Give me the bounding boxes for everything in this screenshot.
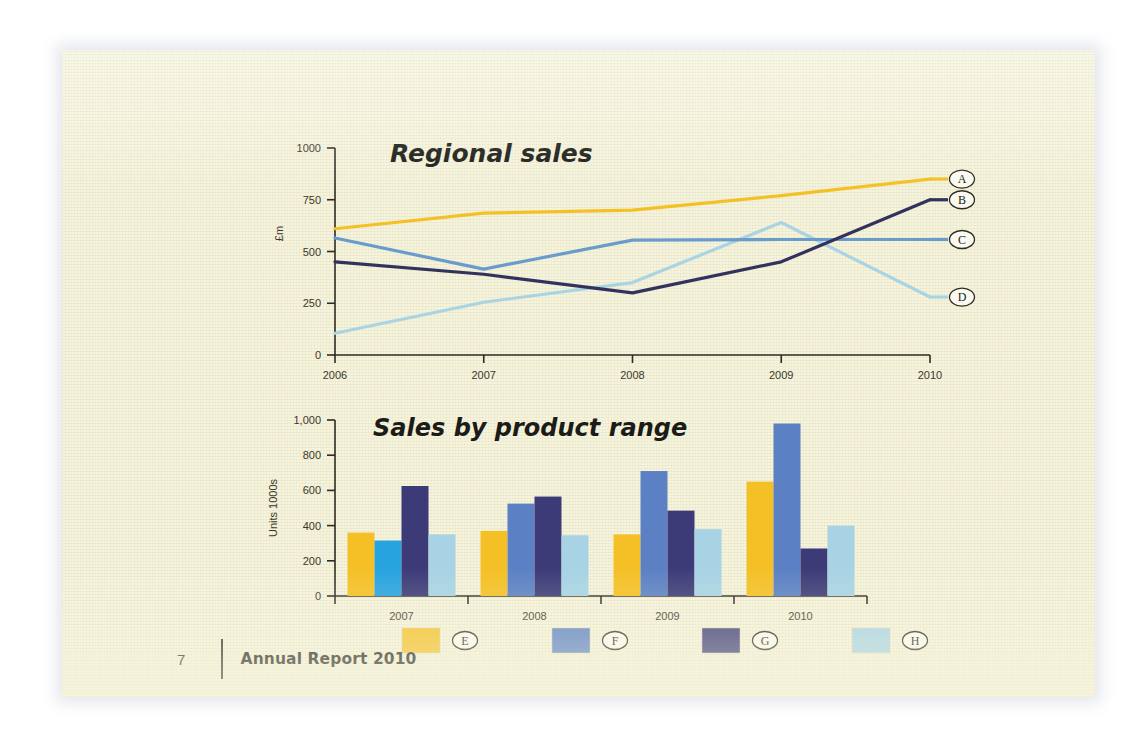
bar-h-2007[interactable] bbox=[429, 534, 456, 596]
legend-badge-g[interactable]: G bbox=[753, 632, 778, 650]
y-tick-label: 250 bbox=[303, 297, 321, 309]
line-legend-badge-d[interactable]: D bbox=[950, 288, 975, 306]
x-tick-label-2007: 2007 bbox=[389, 610, 413, 622]
sales-by-product-range-svg: 02004006008001,000Units 1000sSales by pr… bbox=[217, 350, 1017, 640]
y-tick-label: 1000 bbox=[297, 142, 321, 154]
y-tick-label: 0 bbox=[315, 590, 321, 602]
y-axis-label: £m bbox=[273, 226, 285, 241]
bar-f-2008[interactable] bbox=[508, 504, 535, 596]
report-page: 0250500750100020062007200820092010£mRegi… bbox=[62, 50, 1095, 697]
bar-group bbox=[348, 486, 456, 596]
y-tick-label: 400 bbox=[303, 520, 321, 532]
x-tick-label-2008: 2008 bbox=[522, 610, 546, 622]
x-tick-label-2009: 2009 bbox=[655, 610, 679, 622]
sales-by-product-range-chart: 02004006008001,000Units 1000sSales by pr… bbox=[217, 350, 1017, 640]
bar-h-2009[interactable] bbox=[695, 529, 722, 596]
y-tick-label: 750 bbox=[303, 194, 321, 206]
line-legend-badge-a[interactable]: A bbox=[950, 170, 975, 188]
badge-label: E bbox=[461, 634, 468, 648]
badge-label: H bbox=[911, 634, 920, 648]
bar-g-2009[interactable] bbox=[668, 511, 695, 596]
line-legend-badge-b[interactable]: B bbox=[950, 191, 975, 209]
legend-badge-f[interactable]: F bbox=[603, 632, 628, 650]
badge-label: C bbox=[958, 233, 966, 247]
y-tick-label: 1,000 bbox=[293, 414, 321, 426]
badge-label: F bbox=[612, 634, 619, 648]
x-tick-label-2010: 2010 bbox=[788, 610, 812, 622]
bar-e-2009[interactable] bbox=[614, 534, 641, 596]
y-tick-label: 800 bbox=[303, 449, 321, 461]
line-legend-badge-c[interactable]: C bbox=[950, 230, 975, 248]
bar-g-2007[interactable] bbox=[402, 486, 429, 596]
bar-group bbox=[614, 471, 722, 596]
legend-item-g[interactable]: G bbox=[702, 628, 778, 653]
bar-e-2007[interactable] bbox=[348, 533, 375, 596]
y-axis-label: Units 1000s bbox=[267, 478, 279, 537]
bar-chart-title: Sales by product range bbox=[373, 414, 687, 442]
legend-swatch bbox=[552, 628, 590, 653]
page-number: 7 bbox=[177, 651, 221, 668]
legend-badge-h[interactable]: H bbox=[903, 632, 928, 650]
footer-divider bbox=[221, 639, 223, 679]
bar-f-2010[interactable] bbox=[774, 424, 801, 596]
bar-f-2009[interactable] bbox=[641, 471, 668, 596]
bar-h-2008[interactable] bbox=[562, 535, 589, 596]
bar-e-2008[interactable] bbox=[481, 531, 508, 596]
regional-sales-svg: 0250500750100020062007200820092010£mRegi… bbox=[230, 80, 1030, 380]
legend-item-f[interactable]: F bbox=[552, 628, 628, 653]
line-series-a bbox=[335, 179, 930, 229]
bar-g-2010[interactable] bbox=[801, 548, 828, 596]
badge-label: D bbox=[958, 290, 967, 304]
bar-g-2008[interactable] bbox=[535, 497, 562, 596]
y-tick-label: 600 bbox=[303, 484, 321, 496]
bar-e-2010[interactable] bbox=[747, 482, 774, 596]
regional-sales-chart: 0250500750100020062007200820092010£mRegi… bbox=[230, 80, 1030, 380]
legend-swatch bbox=[702, 628, 740, 653]
legend-item-h[interactable]: H bbox=[852, 628, 928, 653]
line-chart-title: Regional sales bbox=[390, 139, 593, 168]
footer-title: Annual Report 2010 bbox=[241, 650, 417, 668]
badge-label: A bbox=[958, 172, 967, 186]
bar-h-2010[interactable] bbox=[828, 526, 855, 596]
bar-group bbox=[747, 424, 855, 596]
legend-badge-e[interactable]: E bbox=[453, 632, 478, 650]
badge-label: G bbox=[761, 634, 770, 648]
bar-group bbox=[481, 497, 589, 596]
line-series-b bbox=[335, 200, 930, 293]
bar-f-2007[interactable] bbox=[375, 541, 402, 596]
page-footer: 7 Annual Report 2010 bbox=[177, 638, 416, 680]
badge-label: B bbox=[958, 193, 966, 207]
y-tick-label: 500 bbox=[303, 246, 321, 258]
legend-swatch bbox=[852, 628, 890, 653]
y-tick-label: 200 bbox=[303, 555, 321, 567]
